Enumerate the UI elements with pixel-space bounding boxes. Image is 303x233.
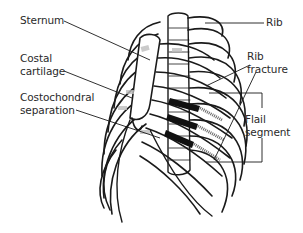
label-costal-cartilage-line2: cartilage [20,65,65,78]
label-costal-cartilage-line1: Costal [20,52,52,65]
label-rib: Rib [266,16,283,29]
label-flail-line2: segment [245,126,290,139]
rib-cage-diagram: Sternum Costal cartilage Costochondral s… [0,0,303,233]
label-sternum: Sternum [20,14,64,27]
label-costochondral-line1: Costochondral [20,91,94,104]
label-costochondral-line2: separation [20,104,75,117]
label-rib-fracture-line1: Rib [247,50,264,63]
label-rib-fracture-line2: fracture [247,63,288,76]
label-flail-line1: Flail [245,113,266,126]
